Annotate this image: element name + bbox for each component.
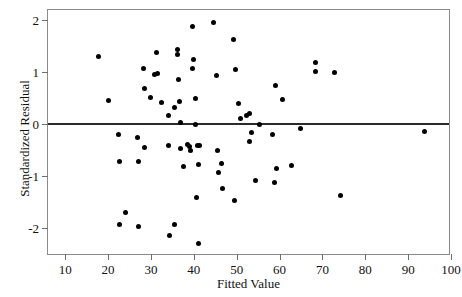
data-point — [191, 57, 196, 62]
data-point — [188, 148, 193, 153]
data-point — [194, 195, 199, 200]
data-point — [332, 70, 337, 75]
data-point — [220, 186, 225, 191]
data-point — [175, 52, 180, 57]
y-tick-label: -2 — [28, 221, 39, 234]
data-point — [190, 24, 195, 29]
data-point — [176, 77, 181, 82]
data-point — [274, 166, 279, 171]
data-point — [141, 66, 146, 71]
data-points-layer — [48, 10, 449, 254]
data-point — [257, 122, 262, 127]
x-tick — [408, 254, 409, 260]
x-axis-title: Fitted Value — [47, 277, 450, 290]
data-point — [172, 105, 177, 110]
data-point — [249, 130, 254, 135]
data-point — [196, 241, 201, 246]
x-tick — [65, 254, 66, 260]
y-tick — [42, 124, 48, 125]
data-point — [148, 95, 153, 100]
x-tick-label: 60 — [273, 263, 286, 276]
x-tick-label: 90 — [402, 263, 415, 276]
data-point — [270, 132, 275, 137]
x-tick-label: 70 — [316, 263, 329, 276]
x-tick-label: 10 — [59, 263, 72, 276]
x-tick-label: 30 — [144, 263, 157, 276]
data-point — [135, 135, 140, 140]
data-point — [159, 100, 164, 105]
data-point — [197, 143, 202, 148]
x-tick-label: 20 — [102, 263, 115, 276]
data-point — [117, 222, 122, 227]
data-point — [193, 96, 198, 101]
data-point — [273, 83, 278, 88]
data-point — [181, 164, 186, 169]
data-point — [116, 132, 121, 137]
x-tick-label: 40 — [187, 263, 200, 276]
plot-area: 210-1-2 102030405060708090100 — [47, 9, 450, 255]
x-tick — [194, 254, 195, 260]
data-point — [214, 73, 219, 78]
data-point — [193, 122, 198, 127]
data-point — [289, 163, 294, 168]
data-point — [232, 198, 237, 203]
data-point — [196, 162, 201, 167]
y-tick — [42, 72, 48, 73]
data-point — [216, 170, 221, 175]
data-point — [338, 193, 343, 198]
y-tick-label: 1 — [33, 66, 40, 79]
data-point — [233, 67, 238, 72]
data-point — [190, 66, 195, 71]
data-point — [313, 60, 318, 65]
data-point — [155, 71, 160, 76]
y-tick-label: 0 — [33, 117, 40, 130]
y-tick — [42, 228, 48, 229]
data-point — [253, 178, 258, 183]
data-point — [96, 54, 101, 59]
x-tick — [365, 254, 366, 260]
data-point — [177, 99, 182, 104]
data-point — [136, 224, 141, 229]
y-tick — [42, 176, 48, 177]
data-point — [142, 145, 147, 150]
data-point — [236, 101, 241, 106]
x-tick-label: 80 — [359, 263, 372, 276]
data-point — [313, 69, 318, 74]
data-point — [247, 111, 252, 116]
x-tick — [280, 254, 281, 260]
data-point — [106, 98, 111, 103]
data-point — [178, 120, 183, 125]
data-point — [167, 233, 172, 238]
data-point — [280, 97, 285, 102]
data-point — [238, 116, 243, 121]
x-tick — [151, 254, 152, 260]
data-point — [117, 159, 122, 164]
x-tick — [108, 254, 109, 260]
data-point — [136, 159, 141, 164]
data-point — [219, 161, 224, 166]
data-point — [298, 126, 303, 131]
x-tick-label: 50 — [230, 263, 243, 276]
data-point — [215, 148, 220, 153]
data-point — [422, 129, 427, 134]
y-tick-label: -1 — [28, 169, 39, 182]
y-tick-label: 2 — [33, 14, 40, 27]
data-point — [211, 20, 216, 25]
data-point — [247, 139, 252, 144]
x-tick — [451, 254, 452, 260]
x-tick — [237, 254, 238, 260]
data-point — [123, 210, 128, 215]
data-point — [166, 143, 171, 148]
data-point — [166, 113, 171, 118]
data-point — [172, 222, 177, 227]
y-axis-title: Standardized Residual — [18, 39, 31, 239]
data-point — [178, 146, 183, 151]
x-tick-label: 100 — [441, 263, 461, 276]
data-point — [231, 37, 236, 42]
data-point — [142, 86, 147, 91]
data-point — [154, 50, 159, 55]
x-tick — [322, 254, 323, 260]
data-point — [272, 180, 277, 185]
y-tick — [42, 20, 48, 21]
scatter-plot: Standardized Residual 210-1-2 1020304050… — [0, 0, 462, 297]
